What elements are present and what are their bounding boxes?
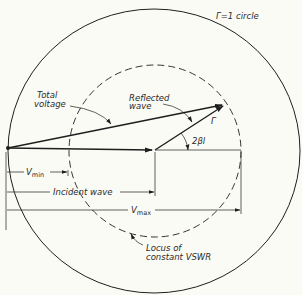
total-voltage-leader [70, 106, 111, 124]
constant-vswr-locus [69, 65, 241, 237]
angle-label: 2βl [192, 136, 206, 146]
incident-wave-label: Incident wave [53, 187, 112, 197]
reflected-wave-label-line2: wave [129, 101, 151, 111]
total-voltage-label-line2: voltage [34, 99, 66, 109]
incident-wave-vector [8, 148, 152, 150]
locus-label-line2: constant VSWR [146, 252, 211, 262]
vswr-phasor-diagram: Vmin Incident wave Vmax Γ=1 circle Total… [0, 0, 302, 295]
total-voltage-vector [8, 105, 222, 148]
reflected-wave-vector [155, 106, 223, 150]
angle-arc [181, 133, 188, 150]
gamma-label: Γ [211, 116, 217, 126]
reflected-wave-leader [163, 104, 192, 122]
unit-circle-label: Γ=1 circle [216, 11, 259, 21]
diagram: Vmin Incident wave Vmax Γ=1 circle Total… [0, 0, 302, 295]
vmax-label: Vmax [131, 205, 151, 217]
vmin-label: Vmin [26, 167, 44, 179]
